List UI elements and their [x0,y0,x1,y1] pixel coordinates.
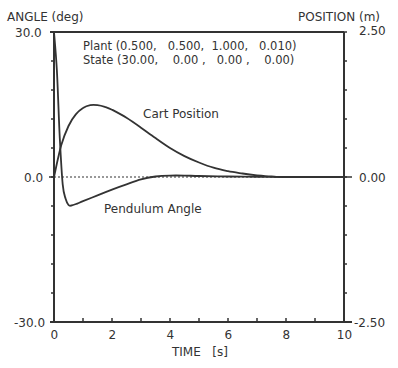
x-tick-label: 8 [282,329,290,341]
left-tick-bottom: -30.0 [14,317,45,329]
right-tick-zero: 0.00 [359,172,386,184]
x-axis-title: TIME [s] [172,346,228,358]
x-tick-label: 10 [337,329,352,341]
x-tick-label: 2 [108,329,116,341]
right-axis-title: POSITION (m) [298,11,380,23]
right-tick-bottom: -2.50 [354,317,385,329]
x-tick-label: 0 [50,329,58,341]
plant-parameters: Plant (0.500, 0.500, 1.000, 0.010) [83,41,297,53]
left-tick-top: 30.0 [15,27,42,39]
left-axis-title: ANGLE (deg) [7,11,84,23]
cart-position-label: Cart Position [143,108,219,120]
left-tick-zero: 0.0 [24,172,43,184]
x-tick-label: 6 [224,329,232,341]
right-tick-top: 2.50 [359,25,386,37]
state-parameters: State (30.00, 0.00 , 0.00 , 0.00) [83,55,294,67]
x-tick-label: 4 [166,329,174,341]
pendulum-angle-label: Pendulum Angle [104,203,202,215]
